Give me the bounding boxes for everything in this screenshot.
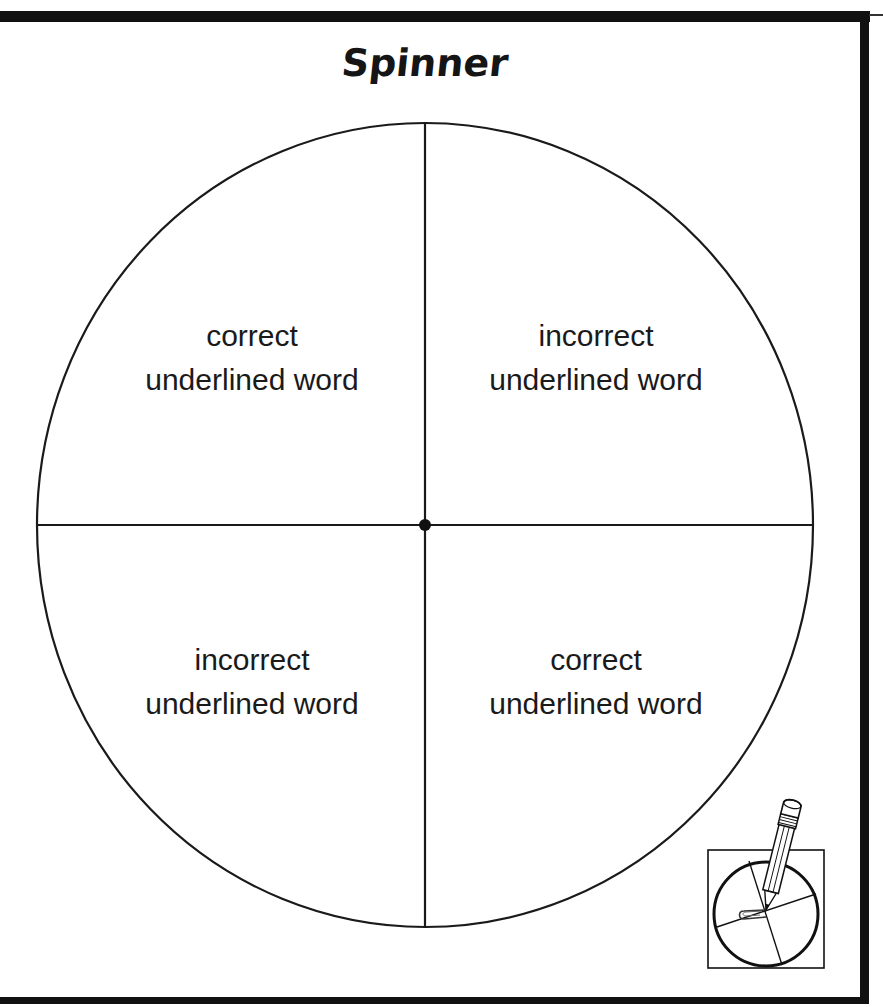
- section-label-line2: underlined word: [102, 358, 402, 402]
- section-label-line2: underlined word: [446, 682, 746, 726]
- spinner-section-bottom-left: incorrect underlined word: [102, 638, 402, 726]
- spinner-section-bottom-right: correct underlined word: [446, 638, 746, 726]
- section-label-line2: underlined word: [446, 358, 746, 402]
- section-label-line1: correct: [102, 314, 402, 358]
- section-label-line1: incorrect: [446, 314, 746, 358]
- section-label-line1: incorrect: [102, 638, 402, 682]
- spinner-section-top-right: incorrect underlined word: [446, 314, 746, 402]
- section-label-line1: correct: [446, 638, 746, 682]
- center-dot-icon: [419, 519, 431, 531]
- pencil-paperclip-spinner-icon: [700, 795, 840, 980]
- spinner-section-top-left: correct underlined word: [102, 314, 402, 402]
- section-label-line2: underlined word: [102, 682, 402, 726]
